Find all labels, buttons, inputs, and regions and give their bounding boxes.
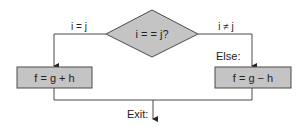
- then-box-label: f = g + h: [34, 72, 74, 84]
- false-branch-label: i ≠ j: [218, 21, 234, 32]
- true-branch-label: i = j: [71, 21, 87, 32]
- else-box-label: f = g − h: [233, 72, 273, 84]
- true-branch-connector: [54, 34, 106, 66]
- else-process-box: f = g − h: [215, 67, 291, 88]
- merge-connector: [54, 88, 252, 119]
- decision-node: i = = j?: [106, 10, 198, 57]
- exit-label: Exit:: [127, 108, 148, 120]
- then-process-box: f = g + h: [17, 67, 92, 88]
- flowchart: i = = j? i = j i ≠ j Else: f = g + h f =…: [0, 0, 301, 127]
- decision-label: i = = j?: [135, 28, 168, 40]
- else-label: Else:: [216, 50, 240, 62]
